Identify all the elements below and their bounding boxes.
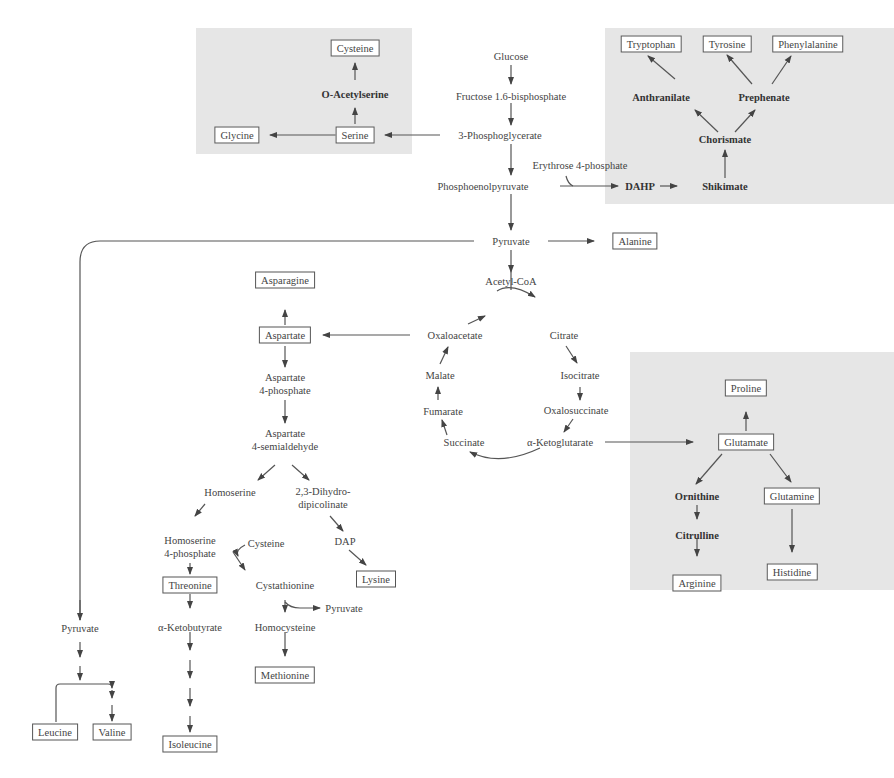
- pyruvate-label: Pyruvate: [492, 235, 529, 248]
- isocitrate-label: Isocitrate: [560, 369, 599, 382]
- homocysteine-label: Homocysteine: [255, 621, 316, 634]
- glutamate-box: Glutamate: [718, 434, 774, 451]
- arginine-box: Arginine: [672, 575, 721, 592]
- glucose-label: Glucose: [494, 50, 528, 63]
- oxaloacetate-label: Oxaloacetate: [428, 329, 483, 342]
- pyruvate-byproduct-label: Pyruvate: [325, 602, 362, 615]
- malate-label: Malate: [425, 369, 454, 382]
- citrulline-label: Citrulline: [675, 529, 719, 542]
- valine-box: Valine: [93, 724, 132, 741]
- aspartate-box: Aspartate: [259, 327, 311, 344]
- 3-phosphoglycerate-label: 3-Phosphoglycerate: [458, 129, 541, 142]
- citrate-label: Citrate: [550, 329, 579, 342]
- succinate-label: Succinate: [444, 436, 485, 449]
- alpha-ketobutyrate-label: α-Ketobutyrate: [158, 621, 222, 634]
- leucine-box: Leucine: [32, 724, 78, 741]
- homoserine-label: Homoserine: [204, 486, 255, 499]
- threonine-box: Threonine: [162, 577, 217, 594]
- tryptophan-box: Tryptophan: [621, 36, 682, 53]
- phosphoenolpyruvate-label: Phosphoenolpyruvate: [438, 180, 529, 193]
- phenylalanine-box: Phenylalanine: [772, 36, 843, 53]
- fumarate-label: Fumarate: [423, 405, 463, 418]
- histidine-box: Histidine: [767, 564, 818, 581]
- lysine-box: Lysine: [356, 571, 396, 588]
- cystathionine-label: Cystathionine: [256, 579, 314, 592]
- homoserine-4-phosphate-label: Homoserine 4-phosphate: [164, 534, 215, 560]
- dap-label: DAP: [334, 535, 355, 548]
- glutamine-box: Glutamine: [764, 488, 820, 505]
- cysteine-label: Cysteine: [248, 537, 285, 550]
- shikimate-label: Shikimate: [702, 180, 748, 193]
- asparagine-box: Asparagine: [255, 272, 315, 289]
- alanine-box: Alanine: [612, 233, 657, 250]
- acetyl-coa-label: Acetyl-CoA: [485, 275, 536, 288]
- anthranilate-label: Anthranilate: [632, 91, 690, 104]
- pyruvate-family-label: Pyruvate: [61, 622, 98, 635]
- proline-box: Proline: [725, 380, 767, 397]
- oxalosuccinate-label: Oxalosuccinate: [544, 404, 609, 417]
- dihydrodipicolinate-label: 2,3-Dihydro- dipicolinate: [295, 485, 350, 511]
- glycine-box: Glycine: [214, 127, 259, 144]
- aspartate-4-phosphate-label: Aspartate 4-phosphate: [259, 371, 310, 397]
- chorismate-label: Chorismate: [699, 133, 752, 146]
- erythrose-4-phosphate-label: Erythrose 4-phosphate: [533, 159, 628, 172]
- amino-acid-biosynthesis-diagram: Glucose Fructose 1.6-bisphosphate 3-Phos…: [0, 0, 894, 778]
- prephenate-label: Prephenate: [738, 91, 789, 104]
- fructose-bisphosphate-label: Fructose 1.6-bisphosphate: [456, 90, 566, 103]
- methionine-box: Methionine: [255, 667, 315, 684]
- serine-box: Serine: [336, 127, 375, 144]
- isoleucine-box: Isoleucine: [162, 736, 217, 753]
- o-acetylserine-label: O-Acetylserine: [321, 88, 388, 101]
- cysteine-box: Cysteine: [331, 40, 380, 57]
- aspartate-4-semialdehyde-label: Aspartate 4-semialdehyde: [252, 427, 318, 453]
- alpha-ketoglutarate-label: α-Ketoglutarate: [527, 436, 593, 449]
- dahp-label: DAHP: [625, 180, 655, 193]
- ornithine-label: Ornithine: [675, 490, 719, 503]
- tyrosine-box: Tyrosine: [703, 36, 752, 53]
